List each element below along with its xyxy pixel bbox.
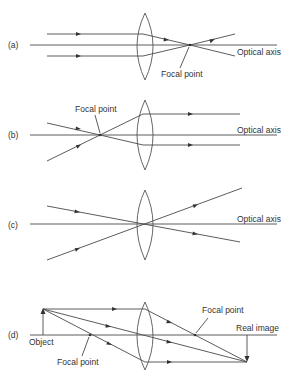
focal-leader-left-d: [82, 337, 89, 356]
panel-label-b: (b): [8, 130, 19, 140]
convex-lens-a: [137, 13, 153, 80]
optical-axis-label-c: Optical axis: [237, 214, 281, 224]
focal-point-label-b: Focal point: [75, 104, 117, 114]
object-label: Object: [29, 337, 54, 347]
arrow-icon: [76, 145, 81, 149]
arrow-icon: [193, 204, 198, 208]
focal-point-label-left-d: Focal point: [57, 357, 99, 367]
arrow-icon: [112, 307, 117, 311]
focal-point-label-right-d: Focal point: [202, 305, 244, 315]
arrow-icon: [76, 32, 81, 36]
focal-leader-right-d: [196, 318, 208, 333]
panel-b: (b) Focal point Optical axis: [8, 100, 281, 170]
ray-center-d: [43, 309, 247, 362]
focal-point-marker-a: [189, 44, 192, 47]
arrow-icon: [75, 248, 80, 252]
arrow-icon: [74, 209, 80, 213]
arrow-icon: [106, 341, 112, 345]
arrow-icon: [76, 54, 81, 58]
real-image-label: Real image: [236, 323, 279, 333]
optical-axis-label-a: Optical axis: [237, 47, 281, 57]
arrow-icon: [192, 231, 198, 235]
focal-point-label-a: Focal point: [161, 69, 203, 79]
focal-point-marker-left-d: [89, 334, 92, 337]
arrow-icon: [210, 39, 216, 43]
panel-label-c: (c): [8, 220, 18, 230]
panel-label-d: (d): [8, 330, 19, 340]
arrow-icon: [105, 324, 111, 328]
arrow-icon: [167, 360, 172, 364]
focal-point-marker-b: [99, 134, 102, 137]
arrow-icon: [188, 112, 193, 116]
ray-upper-b: [47, 114, 240, 161]
lens-ray-diagram: (a) Focal point Optical axis (b) F: [0, 0, 295, 379]
panel-a: (a) Focal point Optical axis: [8, 13, 281, 80]
optical-axis-label-b: Optical axis: [237, 125, 281, 135]
focal-point-marker-right-d: [194, 334, 197, 337]
focal-leader-a: [180, 47, 189, 68]
arrow-icon: [166, 340, 172, 344]
ray-lower-b: [47, 123, 240, 145]
panel-label-a: (a): [8, 40, 19, 50]
arrow-icon: [188, 143, 193, 147]
panel-c: (c) Optical axis: [8, 188, 281, 260]
focal-leader-b: [95, 115, 100, 133]
panel-d: (d) Object Real image Focal point Focal …: [8, 302, 279, 370]
